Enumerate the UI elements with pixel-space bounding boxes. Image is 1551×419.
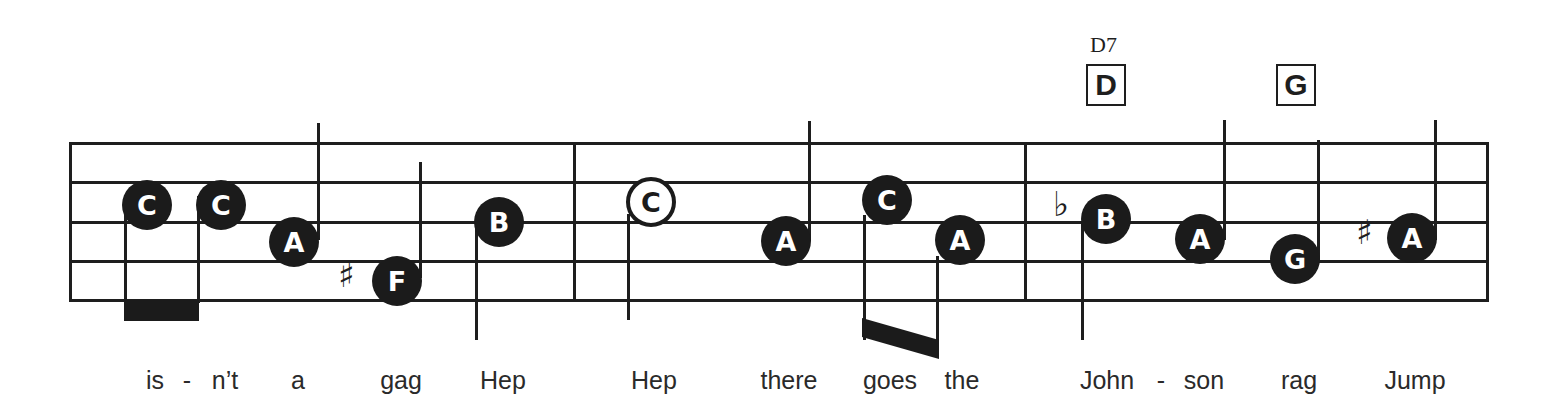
note-head: BF (372, 256, 422, 306)
note-stem (419, 162, 422, 278)
note-letter: G (1284, 244, 1306, 275)
note-letter: B (489, 207, 510, 238)
note-stem (1434, 120, 1437, 240)
staff-line (70, 181, 1489, 184)
lyric-syllable: Hep (631, 366, 677, 395)
note-stem (317, 123, 320, 240)
note-letter: C (877, 185, 897, 216)
note-head: A (935, 215, 985, 265)
barline (573, 142, 576, 302)
chord-box: D (1086, 64, 1126, 106)
barline (1024, 142, 1027, 302)
beam (862, 318, 940, 360)
note-head: G (1270, 234, 1320, 284)
lyric-syllable: rag (1281, 366, 1317, 395)
note-letter: C (211, 190, 231, 221)
lyric-syllable: the (945, 366, 980, 395)
note-head: A (269, 217, 319, 267)
note-letter: F (388, 266, 406, 297)
note-letter: A (284, 227, 305, 258)
note-head: C (196, 180, 246, 230)
note-head: A (1387, 213, 1437, 263)
note-head: C (862, 175, 912, 225)
lyric-syllable: gag (380, 366, 422, 395)
note-stem (1317, 140, 1320, 260)
lyric-hyphen: - (183, 366, 191, 395)
half-note-head: C (626, 177, 676, 227)
beam (124, 300, 199, 321)
note-head: A (1175, 214, 1225, 264)
lyric-syllable: there (761, 366, 818, 395)
note-stem (627, 214, 630, 320)
flat-icon: ♭ (1053, 187, 1069, 221)
note-letter: C (137, 190, 157, 221)
lyric-syllable: Jump (1384, 366, 1445, 395)
lyric-syllable: is (146, 366, 164, 395)
note-head: A (761, 216, 811, 266)
lyric-syllable: goes (863, 366, 917, 395)
sharp-icon: ♯ (1356, 215, 1372, 249)
lyric-syllable: Hep (480, 366, 526, 395)
note-letter: A (1190, 224, 1211, 255)
staff-line (70, 142, 1489, 145)
chord-name: D7 (1090, 32, 1117, 58)
chord-box: G (1276, 64, 1316, 106)
note-head: B (1081, 194, 1131, 244)
lyric-syllable: n’t (212, 366, 238, 395)
note-stem (808, 121, 811, 241)
note-letter: B (1096, 204, 1117, 235)
lyric-syllable: John (1080, 366, 1134, 395)
staff-line (70, 299, 1489, 302)
note-letter: A (776, 226, 797, 257)
lyric-syllable: son (1184, 366, 1224, 395)
note-stem (1223, 120, 1226, 240)
note-head: B (474, 197, 524, 247)
sharp-icon: ♯ (338, 258, 354, 292)
barline (1486, 142, 1489, 302)
barline (69, 142, 72, 302)
lyric-hyphen: - (1157, 366, 1165, 395)
note-letter: A (1402, 223, 1423, 254)
lyric-syllable: a (291, 366, 305, 395)
note-head: C (122, 180, 172, 230)
note-stem (1081, 222, 1084, 340)
note-letter: C (641, 187, 661, 218)
note-stem (475, 222, 478, 340)
note-letter: A (950, 225, 971, 256)
